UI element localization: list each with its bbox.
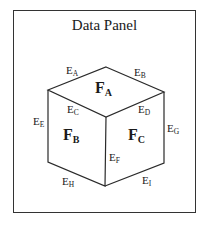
edge-label-a: EA	[66, 65, 78, 78]
edge-label-i: EI	[142, 175, 151, 188]
edge-label-b: EB	[134, 67, 146, 80]
face-label-a: FA	[95, 80, 112, 98]
cube-diagram	[0, 0, 209, 225]
face-label-b: FB	[63, 127, 79, 145]
edge-label-f: EF	[109, 152, 120, 165]
edge-label-c: EC	[67, 104, 79, 117]
edge-label-e: EE	[33, 116, 44, 129]
face-label-c: FC	[128, 127, 145, 145]
edge-label-d: ED	[138, 104, 150, 117]
edge-label-h: EH	[62, 176, 74, 189]
edge-label-g: EG	[167, 123, 179, 136]
